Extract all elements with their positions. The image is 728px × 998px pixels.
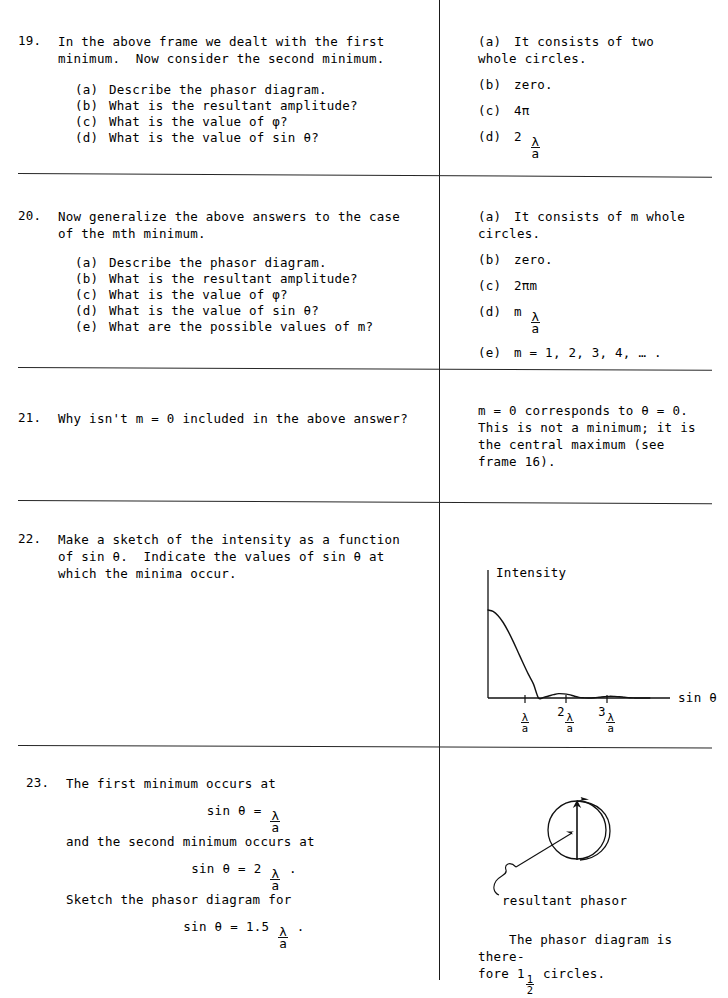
frame-number-21: 21. bbox=[18, 410, 52, 425]
phasor-label: resultant phasor bbox=[502, 893, 627, 908]
frame-divider-19-20 bbox=[18, 173, 712, 178]
squiggle-tail bbox=[494, 864, 516, 895]
phasor-svg bbox=[480, 785, 720, 905]
frame-23-closing-text: The phasor diagram is there- fore 112 ci… bbox=[478, 914, 723, 998]
answer-item: (c)4π bbox=[478, 102, 716, 119]
answer-item: (a)It consists of m whole circles. bbox=[478, 208, 716, 242]
frame-divider-21-22 bbox=[18, 500, 712, 504]
answer-item: (b)zero. bbox=[478, 76, 716, 93]
frame-19-answers: (a)It consists of two whole circles. (b)… bbox=[478, 33, 716, 169]
loop-arrowhead bbox=[579, 797, 589, 801]
fraction-lambda-over-a: λa bbox=[521, 713, 529, 733]
frame-number-20: 20. bbox=[18, 208, 52, 223]
column-divider bbox=[439, 0, 440, 980]
fraction-lambda-over-a: λa bbox=[270, 868, 280, 892]
frame-19-subquestions: (a)Describe the phasor diagram. (b)What … bbox=[75, 82, 435, 146]
intensity-diffraction-graph: Intensity sin θ λa 2λa 3λa bbox=[470, 565, 720, 740]
frame-number-19: 19. bbox=[18, 33, 52, 48]
frame-23-line-2: and the second minimum occurs at bbox=[66, 833, 438, 850]
frame-20-question: Now generalize the above answers to the … bbox=[58, 208, 430, 242]
answer-item: (b)zero. bbox=[478, 251, 716, 268]
answer-item: (a)It consists of two whole circles. bbox=[478, 33, 716, 67]
frame-23-equation-2: sin θ = 2 λa . bbox=[58, 861, 430, 892]
frame-23-line-3: Sketch the phasor diagram for bbox=[66, 891, 438, 908]
tick-label-1: λa bbox=[510, 705, 540, 733]
phasor-diagram: resultant phasor bbox=[480, 785, 720, 905]
list-item: (d)What is the value of sin θ? bbox=[75, 303, 435, 319]
list-item: (a)Describe the phasor diagram. bbox=[75, 82, 435, 98]
y-axis-label: Intensity bbox=[496, 565, 566, 580]
frame-21-question: Why isn't m = 0 included in the above an… bbox=[58, 410, 430, 427]
answer-item: (d)2 λa bbox=[478, 128, 716, 160]
fraction-lambda-over-a: λa bbox=[606, 713, 614, 733]
list-item: (c)What is the value of φ? bbox=[75, 114, 435, 130]
answer-item: (e)m = 1, 2, 3, 4, … . bbox=[478, 344, 716, 361]
tick-label-3: 3λa bbox=[590, 705, 624, 733]
list-item: (b)What is the resultant amplitude? bbox=[75, 98, 435, 114]
fraction-lambda-over-a: λa bbox=[565, 713, 573, 733]
fraction-lambda-over-a: λa bbox=[270, 810, 280, 834]
frame-19-question: In the above frame we dealt with the fir… bbox=[58, 33, 430, 67]
frame-23-line-1: The first minimum occurs at bbox=[66, 775, 438, 792]
answer-item: (c)2πm bbox=[478, 277, 716, 294]
phasor-half-loop bbox=[577, 801, 610, 860]
frame-20-subquestions: (a)Describe the phasor diagram. (b)What … bbox=[75, 255, 435, 335]
list-item: (b)What is the resultant amplitude? bbox=[75, 271, 435, 287]
frame-number-22: 22. bbox=[18, 531, 52, 546]
x-axis-label: sin θ bbox=[678, 690, 717, 705]
list-item: (e)What are the possible values of m? bbox=[75, 319, 435, 335]
frame-21-answer: m = 0 corresponds to θ = 0. This is not … bbox=[478, 402, 716, 470]
fraction-lambda-over-a: λa bbox=[531, 311, 541, 335]
answer-item: (d)m λa bbox=[478, 303, 716, 335]
frame-23-equation-3: sin θ = 1.5 λa . bbox=[58, 919, 430, 950]
fraction-lambda-over-a: λa bbox=[278, 926, 288, 950]
list-item: (a)Describe the phasor diagram. bbox=[75, 255, 435, 271]
frame-20-answers: (a)It consists of m whole circles. (b)ze… bbox=[478, 208, 716, 370]
fraction-one-half: 12 bbox=[526, 975, 535, 995]
list-item: (d)What is the value of sin θ? bbox=[75, 130, 435, 146]
label-pointer-line bbox=[516, 833, 572, 867]
intensity-curve bbox=[488, 610, 650, 699]
fraction-lambda-over-a: λa bbox=[531, 136, 541, 160]
frame-23-equation-1: sin θ = λa bbox=[58, 803, 430, 834]
frame-number-23: 23. bbox=[26, 775, 60, 790]
list-item: (c)What is the value of φ? bbox=[75, 287, 435, 303]
tick-label-2: 2λa bbox=[549, 705, 583, 733]
answer-text: m = 0 corresponds to θ = 0. This is not … bbox=[478, 402, 716, 470]
frame-divider-22-23 bbox=[18, 745, 712, 748]
frame-22-question: Make a sketch of the intensity as a func… bbox=[58, 531, 430, 582]
